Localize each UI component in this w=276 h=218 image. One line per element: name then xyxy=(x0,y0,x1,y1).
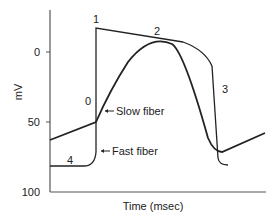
phase-label-1: 1 xyxy=(93,13,99,25)
slow-fiber-annotation: Slow fiber xyxy=(116,105,165,117)
phase-label-3: 3 xyxy=(222,83,228,95)
slow-fiber-arrowhead-icon xyxy=(105,109,108,113)
slow-fiber-line xyxy=(50,41,265,152)
y-tick-label-50: 50 xyxy=(28,116,40,128)
y-axis-label: mV xyxy=(12,83,24,100)
phase-label-0: 0 xyxy=(85,95,91,107)
fast-fiber-annotation: Fast fiber xyxy=(112,145,158,157)
y-tick-label-100: 100 xyxy=(22,186,40,198)
phase-label-4: 4 xyxy=(67,154,73,166)
fast-fiber-arrowhead-icon xyxy=(101,149,104,153)
y-tick-label-0: 0 xyxy=(34,46,40,58)
action-potential-chart: 0 50 100 mV Time (msec) 1 2 3 0 4 Slow f… xyxy=(0,0,276,218)
x-axis-label: Time (msec) xyxy=(123,200,184,212)
phase-label-2: 2 xyxy=(154,25,160,37)
